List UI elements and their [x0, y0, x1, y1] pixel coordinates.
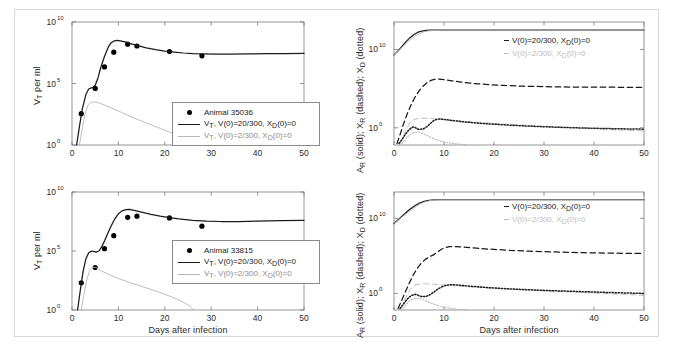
figure-root: 010203040501001051010VT per mlAnimal 350…	[0, 0, 675, 347]
x-tick-label: 0	[392, 313, 397, 323]
svg-text:10: 10	[47, 246, 57, 256]
series-dashed	[397, 79, 644, 143]
svg-text:10: 10	[369, 44, 379, 54]
x-tick-label: 30	[206, 148, 216, 158]
data-marker	[111, 50, 116, 55]
x-tick-label: 50	[639, 148, 649, 158]
y-axis-label: AR (solid); XR (dashed); XD (dotted)	[355, 193, 366, 338]
legend[interactable]: Animal 35036VT, V(0)=20/300, XD(0)=0VT, …	[172, 102, 320, 146]
x-tick-label: 10	[114, 148, 124, 158]
annotation-text: V(0)=20/300, XD(0)=0	[512, 202, 590, 212]
legend-item[interactable]: VT, V(0)=20/300, XD(0)=0	[176, 256, 314, 268]
svg-text:10: 10	[47, 140, 57, 150]
annotation-text: V(0)=2/300, XD(0)=0	[512, 215, 586, 225]
y-tick-label: 105	[47, 244, 61, 256]
svg-text:0: 0	[379, 286, 383, 292]
series-dotted	[402, 132, 467, 145]
annotation-line-icon	[504, 206, 509, 207]
series-dotted	[403, 298, 468, 310]
plot-area-top_right: 010203040501001010	[344, 10, 664, 170]
legend-line-light-icon	[176, 274, 202, 275]
legend[interactable]: Animal 33815VT, V(0)=20/300, XD(0)=0VT, …	[172, 240, 320, 284]
y-axis-label: AR (solid); XR (dashed); XD (dotted)	[355, 28, 366, 173]
x-tick-label: 10	[439, 148, 449, 158]
y-tick-label: 105	[47, 77, 61, 89]
x-tick-label: 0	[70, 313, 75, 323]
y-axis-label-text: AR (solid); XR (dashed); XD (dotted)	[355, 193, 365, 338]
curve-annotation: V(0)=2/300, XD(0)=0	[504, 215, 586, 225]
svg-text:0: 0	[57, 303, 61, 309]
series-dashed	[398, 246, 644, 308]
x-tick-label: 40	[589, 148, 599, 158]
svg-text:10: 10	[379, 211, 386, 217]
data-marker	[125, 215, 130, 220]
y-tick-label: 1010	[47, 15, 65, 27]
y-tick-label: 100	[369, 286, 383, 298]
svg-text:5: 5	[57, 244, 61, 250]
y-axis-label-text: AR (solid); XR (dashed); XD (dotted)	[355, 28, 365, 173]
x-tick-label: 10	[439, 313, 449, 323]
y-axis-label: VT per ml	[32, 231, 43, 270]
curve-annotation: V(0)=20/300, XD(0)=0	[504, 36, 590, 46]
svg-text:10: 10	[47, 305, 57, 315]
y-tick-label: 1010	[369, 42, 387, 54]
svg-text:5: 5	[57, 77, 61, 83]
annotation-line-icon	[504, 53, 509, 54]
x-tick-label: 0	[70, 148, 75, 158]
x-tick-label: 40	[253, 148, 263, 158]
data-marker	[134, 214, 139, 219]
legend-key-glyph	[178, 136, 200, 137]
svg-text:10: 10	[47, 17, 57, 27]
y-axis-label-text: VT per ml	[32, 231, 42, 270]
panel-top-left: 010203040501001051010VT per mlAnimal 350…	[20, 10, 320, 170]
svg-text:10: 10	[47, 79, 57, 89]
legend-item[interactable]: Animal 33815	[176, 244, 314, 256]
svg-text:10: 10	[57, 185, 64, 191]
legend-item-label: Animal 33815	[202, 246, 253, 255]
x-tick-label: 30	[206, 313, 216, 323]
svg-text:0: 0	[57, 138, 61, 144]
curve-annotation: V(0)=2/300, XD(0)=0	[504, 49, 586, 59]
legend-marker-icon	[176, 110, 202, 115]
legend-item-label: VT, V(0)=2/300, XD(0)=0	[202, 269, 292, 279]
data-marker	[199, 224, 204, 229]
legend-item-label: VT, V(0)=20/300, XD(0)=0	[202, 119, 296, 129]
y-tick-label: 100	[47, 303, 61, 315]
legend-item[interactable]: Animal 35036	[176, 106, 314, 118]
svg-text:10: 10	[369, 288, 379, 298]
x-tick-label: 20	[160, 148, 170, 158]
x-tick-label: 30	[539, 148, 549, 158]
legend-item[interactable]: VT, V(0)=20/300, XD(0)=0	[176, 118, 314, 130]
svg-text:0: 0	[379, 121, 383, 127]
legend-marker-icon	[176, 248, 202, 253]
x-tick-label: 30	[539, 313, 549, 323]
legend-line-dark-icon	[176, 124, 202, 125]
svg-text:10: 10	[369, 213, 379, 223]
x-tick-label: 20	[489, 313, 499, 323]
svg-text:10: 10	[57, 15, 64, 21]
legend-line-light-icon	[176, 136, 202, 137]
annotation-text: V(0)=20/300, XD(0)=0	[512, 36, 590, 46]
legend-item[interactable]: VT, V(0)=2/300, XD(0)=0	[176, 130, 314, 142]
y-tick-label: 1010	[369, 211, 387, 223]
data-marker	[102, 64, 107, 69]
annotation-text: V(0)=2/300, XD(0)=0	[512, 49, 586, 59]
annotation-line-icon	[504, 40, 509, 41]
x-axis-label-text: Days after infection	[479, 325, 558, 335]
legend-item[interactable]: VT, V(0)=2/300, XD(0)=0	[176, 268, 314, 280]
x-tick-label: 0	[392, 148, 397, 158]
panel-bottom-left: 010203040501001051010VT per mlDays after…	[20, 180, 320, 345]
legend-item-label: VT, V(0)=20/300, XD(0)=0	[202, 257, 296, 267]
legend-key-glyph	[178, 274, 200, 275]
data-marker	[102, 246, 107, 251]
x-tick-label: 50	[299, 148, 309, 158]
y-axis-label: VT per ml	[32, 66, 43, 105]
legend-key-glyph	[187, 248, 192, 253]
legend-key-glyph	[178, 124, 200, 125]
x-axis-label: Days after infection	[394, 325, 644, 335]
x-tick-label: 40	[253, 313, 263, 323]
x-tick-label: 50	[299, 313, 309, 323]
x-tick-label: 10	[114, 313, 124, 323]
y-axis-label-text: VT per ml	[32, 66, 42, 105]
x-tick-label: 40	[589, 313, 599, 323]
